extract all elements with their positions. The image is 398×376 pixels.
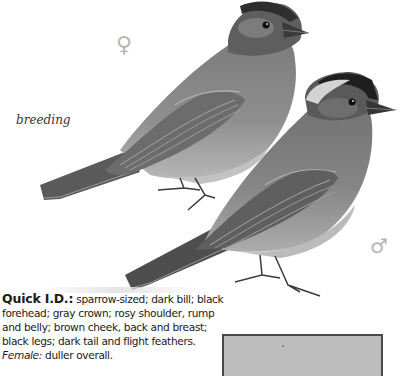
quick-id-heading: Quick I.D.:: [2, 291, 73, 306]
male-symbol-icon: ♂: [370, 236, 388, 256]
female-description: duller overall.: [45, 349, 113, 361]
quick-id-female-line: Female: duller overall.: [2, 348, 232, 362]
quick-id-line-text: sparrow-sized; dark bill; black: [76, 293, 223, 305]
quick-id-line-2: forehead; gray crown; rosy shoulder, rum…: [2, 306, 232, 320]
quick-id-line-4: black legs; dark tail and flight feather…: [2, 334, 232, 348]
quick-id-line-1: Quick I.D.: sparrow-sized; dark bill; bl…: [2, 292, 232, 306]
female-label: Female:: [2, 349, 42, 361]
quick-id-text: Quick I.D.: sparrow-sized; dark bill; bl…: [2, 292, 232, 362]
female-symbol-icon: ♀: [116, 34, 132, 56]
bird-illustration: [0, 0, 398, 300]
map-mark: [282, 345, 284, 347]
breeding-label: breeding: [16, 113, 71, 127]
quick-id-line-3: and belly; brown cheek, back and breast;: [2, 320, 232, 334]
range-map: [222, 334, 383, 376]
